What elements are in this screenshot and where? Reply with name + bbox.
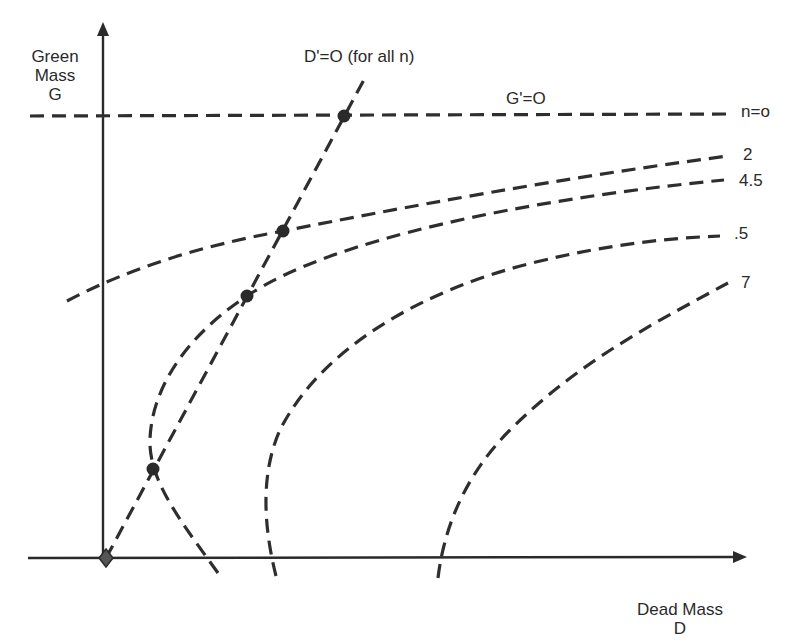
y-axis-arrow-icon — [97, 22, 109, 36]
x-axis-label: Dead Mass D — [620, 600, 740, 638]
curve-label-n0: n=o — [741, 102, 770, 121]
y-axis-label: Green Mass G — [22, 47, 88, 104]
y-axis-label-line1: Green — [22, 47, 88, 66]
g-nullcline-n5 — [266, 236, 720, 576]
curve-label-n7: 7 — [741, 273, 750, 292]
x-axis-line — [28, 557, 738, 558]
equilibrium-dot-n0 — [338, 110, 351, 123]
y-axis-label-line3: G — [22, 85, 88, 104]
x-axis-label-line1: Dead Mass — [620, 600, 740, 619]
g-nullcline-n45 — [150, 180, 724, 573]
d-nullcline-label: D'=O (for all n) — [304, 47, 414, 66]
y-axis-label-line2: Mass — [22, 66, 88, 85]
d-nullcline-line — [106, 76, 366, 558]
g-nullcline-n2 — [67, 156, 728, 301]
x-axis-label-line2: D — [620, 619, 740, 638]
equilibrium-dot-n45-upper — [241, 290, 254, 303]
g-nullcline-n0 — [30, 114, 728, 116]
phase-plane-diagram — [0, 0, 803, 642]
g-nullcline-n7 — [438, 283, 728, 578]
g-nullcline-label: G'=O — [506, 89, 546, 108]
equilibrium-dot-n45-lower — [147, 463, 160, 476]
curve-label-n5: .5 — [734, 224, 748, 243]
equilibrium-dot-n2 — [277, 225, 290, 238]
axes — [28, 22, 747, 563]
curve-label-n45: 4.5 — [739, 171, 763, 190]
curve-label-n2: 2 — [743, 145, 752, 164]
x-axis-arrow-icon — [733, 551, 747, 563]
